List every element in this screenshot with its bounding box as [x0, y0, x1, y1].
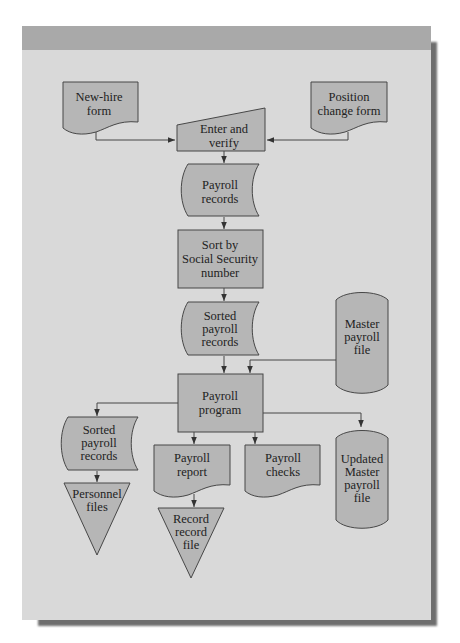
label-line: file [354, 343, 371, 357]
label-line: records [202, 192, 239, 206]
label-line: program [199, 403, 242, 417]
label-line: number [201, 266, 240, 280]
label-line: record [175, 525, 208, 539]
label-line: records [202, 335, 239, 349]
label-line: Social Security [182, 252, 259, 266]
label-line: New-hire [75, 90, 123, 104]
node-sort-by-ssn: Sort bySocial Securitynumber [178, 230, 263, 288]
node-updated-master-payroll-file: UpdatedMasterpayrollfile [336, 431, 388, 529]
node-personnel-files: Personnelfiles [64, 483, 130, 555]
edge-master-to-program [250, 360, 336, 373]
node-position-change-form: Positionchange form [311, 82, 387, 134]
label-line: Record [173, 512, 210, 526]
node-sorted-payroll-records-2: Sortedpayrollrecords [61, 417, 138, 470]
label-line: Sort by [202, 238, 239, 252]
label-line: Master [345, 465, 381, 479]
label-line: Sorted [83, 423, 116, 437]
label-line: payroll [344, 330, 380, 344]
svg-text:Payrollreport: Payrollreport [174, 451, 211, 479]
label-line: Payroll [202, 178, 239, 192]
label-line: Position [329, 90, 371, 104]
label-line: Payroll [202, 389, 239, 403]
svg-text:Payrollprogram: Payrollprogram [199, 389, 242, 417]
node-enter-and-verify: Enter andverify [177, 108, 265, 151]
svg-text:Payrollrecords: Payrollrecords [202, 178, 239, 206]
node-payroll-records: Payrollrecords [181, 164, 259, 216]
label-line: Enter and [200, 122, 249, 136]
label-line: records [81, 449, 118, 463]
node-new-hire-form: New-hireform [63, 82, 138, 134]
edge-newhire-to-enter [96, 132, 175, 140]
node-payroll-program: Payrollprogram [178, 374, 263, 432]
label-line: files [86, 500, 108, 514]
label-line: Payroll [265, 451, 302, 465]
label-line: Personnel [72, 487, 122, 501]
node-sorted-payroll-records: Sortedpayrollrecords [181, 302, 259, 355]
label-line: checks [266, 465, 300, 479]
node-record-record-file: Recordrecordfile [158, 508, 224, 578]
node-payroll-report: Payrollreport [154, 445, 230, 497]
label-line: file [354, 491, 371, 505]
label-line: change form [318, 104, 381, 118]
svg-text:Sortedpayrollrecords: Sortedpayrollrecords [202, 309, 239, 349]
label-line: Updated [341, 452, 384, 466]
svg-text:Payrollchecks: Payrollchecks [265, 451, 302, 479]
label-line: Master [345, 317, 381, 331]
label-line: payroll [81, 436, 117, 450]
label-line: form [87, 104, 112, 118]
label-line: verify [209, 136, 240, 150]
label-line: payroll [202, 322, 238, 336]
label-line: report [177, 465, 207, 479]
edge-program-to-updated [263, 413, 361, 427]
edge-program-to-sorted2 [97, 403, 178, 416]
label-line: Sorted [204, 309, 237, 323]
label-line: payroll [344, 478, 380, 492]
label-line: file [183, 538, 200, 552]
label-line: Payroll [174, 451, 211, 465]
svg-text:Sortedpayrollrecords: Sortedpayrollrecords [81, 423, 118, 463]
node-payroll-checks: Payrollchecks [245, 445, 320, 497]
node-master-payroll-file: Masterpayrollfile [336, 293, 388, 394]
payroll-flowchart: New-hireform Positionchange form Enter a… [0, 0, 460, 643]
